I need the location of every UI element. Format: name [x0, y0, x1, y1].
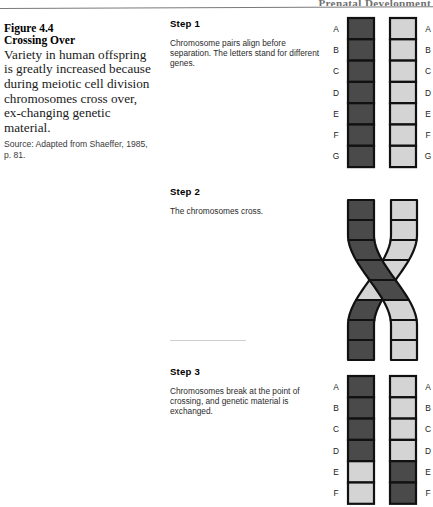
right-label-C: C	[425, 424, 431, 434]
right-label-F: F	[425, 488, 430, 498]
right-label-D: D	[425, 88, 431, 98]
left-label-B: B	[333, 45, 339, 55]
left-chromatid-segment-6	[348, 483, 374, 504]
left-label-F: F	[333, 130, 338, 140]
left-chromatid-segment-1	[348, 18, 374, 39]
right-chromatid-segment-5	[390, 103, 416, 124]
step-2-block: Step 2 The chromosomes cross.	[170, 186, 320, 216]
left-chromatid-segment-4	[348, 82, 374, 103]
right-label-B: B	[425, 403, 431, 413]
right-label-A: A	[425, 24, 431, 34]
step-3-title: Step 3	[170, 366, 320, 377]
left-chromatid-segment-3	[348, 61, 374, 82]
right-label-D: D	[425, 446, 431, 456]
left-label-C: C	[333, 424, 339, 434]
running-head: Prenatal Development	[318, 0, 431, 6]
step-1-chromosome-pair: ABCDEFGABCDEFG	[318, 12, 433, 184]
left-label-D: D	[333, 446, 339, 456]
left-chromatid-segment-2	[348, 39, 374, 60]
left-chromatid-segment-2	[348, 220, 374, 240]
left-chromatid-segment-3	[348, 419, 374, 440]
right-chromatid-segment-6	[390, 483, 416, 504]
left-chromatid-segment-1	[348, 376, 374, 397]
step-3-text: Chromosomes break at the point of crossi…	[170, 386, 320, 417]
right-chromatid-segment-1	[390, 18, 416, 39]
right-chromatid-segment-3	[390, 61, 416, 82]
figure-source-note: Source: Adapted from Shaeffer, 1985, p. …	[4, 139, 156, 160]
right-label-C: C	[425, 66, 431, 76]
figure-body-text: Variety in human offspring is greatly in…	[4, 48, 156, 136]
left-label-G: G	[333, 151, 340, 161]
header-rule	[0, 6, 433, 9]
left-chromatid-segment-6	[383, 300, 417, 320]
right-label-B: B	[425, 45, 431, 55]
right-chromatid-segment-2	[391, 220, 417, 240]
figure-title: Crossing Over	[4, 34, 156, 46]
right-chromatid-segment-2	[390, 397, 416, 418]
figure-caption: Figure 4.4 Crossing Over Variety in huma…	[4, 22, 156, 160]
left-label-C: C	[333, 66, 339, 76]
right-chromatid-segment-8	[348, 340, 374, 360]
right-chromatid-segment-2	[390, 39, 416, 60]
left-chromatid-segment-6	[348, 125, 374, 146]
left-label-E: E	[333, 109, 339, 119]
right-chromatid-segment-7	[390, 146, 416, 167]
right-chromatid-segment-3	[383, 240, 417, 260]
left-label-E: E	[333, 467, 339, 477]
left-label-A: A	[333, 382, 339, 392]
left-chromatid-segment-5	[348, 461, 374, 482]
step-1-title: Step 1	[170, 18, 320, 29]
left-label-F: F	[333, 488, 338, 498]
left-chromatid-segment-8	[391, 340, 417, 360]
left-label-D: D	[333, 88, 339, 98]
right-label-E: E	[425, 467, 431, 477]
left-chromatid-segment-7	[348, 146, 374, 167]
right-chromatid-segment-3	[390, 419, 416, 440]
figure-number: Figure 4.4	[4, 22, 156, 34]
left-chromatid-segment-4	[348, 440, 374, 461]
right-chromatid-segment-6	[348, 300, 382, 320]
step-2-title: Step 2	[170, 186, 320, 197]
diagram-step-2	[318, 196, 433, 366]
right-chromatid-segment-5	[390, 461, 416, 482]
left-chromatid-segment-7	[391, 320, 417, 340]
right-chromatid-segment-4	[390, 82, 416, 103]
right-label-E: E	[425, 109, 431, 119]
left-chromatid-segment-5	[348, 103, 374, 124]
left-label-B: B	[333, 403, 339, 413]
step-2-crossed-chromosomes	[318, 196, 433, 366]
right-label-G: G	[425, 151, 432, 161]
right-chromatid-segment-1	[391, 200, 417, 220]
right-label-F: F	[425, 130, 430, 140]
right-label-A: A	[425, 382, 431, 392]
right-chromatid-segment-4	[390, 440, 416, 461]
right-chromatid-segment-7	[348, 320, 374, 340]
step-3-chromosome-pair: ABCDEFABCDEF	[318, 372, 433, 507]
section-divider	[170, 340, 246, 341]
left-chromatid-segment-2	[348, 397, 374, 418]
left-label-A: A	[333, 24, 339, 34]
left-chromatid-segment-1	[348, 200, 374, 220]
step-2-text: The chromosomes cross.	[170, 206, 320, 216]
step-1-block: Step 1 Chromosome pairs align before sep…	[170, 18, 320, 69]
diagram-step-3: ABCDEFABCDEF	[318, 372, 433, 507]
diagram-step-1: ABCDEFGABCDEFG	[318, 12, 433, 184]
left-chromatid-segment-3	[348, 240, 382, 260]
step-1-text: Chromosome pairs align before separation…	[170, 38, 320, 69]
right-chromatid-segment-6	[390, 125, 416, 146]
step-3-block: Step 3 Chromosomes break at the point of…	[170, 366, 320, 417]
right-chromatid-segment-1	[390, 376, 416, 397]
